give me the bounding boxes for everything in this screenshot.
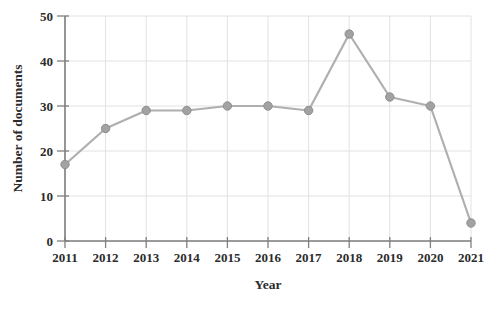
- data-point-2018: [345, 30, 353, 38]
- data-point-2020: [426, 102, 434, 110]
- x-tick-label: 2012: [93, 250, 119, 265]
- data-point-2016: [264, 102, 272, 110]
- x-tick-label: 2011: [52, 250, 77, 265]
- x-tick-label: 2016: [255, 250, 282, 265]
- data-point-2019: [386, 93, 394, 101]
- data-point-2017: [304, 106, 312, 114]
- y-axis-title: Number of documents: [10, 65, 25, 193]
- y-tick-label: 40: [40, 54, 53, 69]
- x-tick-label: 2013: [133, 250, 160, 265]
- data-point-2011: [61, 160, 69, 168]
- y-tick-label: 0: [47, 234, 54, 249]
- y-tick-label: 50: [40, 9, 53, 24]
- x-tick-label: 2014: [174, 250, 201, 265]
- axis-ticks: 0102030405020112012201320142015201620172…: [40, 9, 484, 266]
- y-tick-label: 20: [40, 144, 53, 159]
- y-tick-label: 30: [40, 99, 53, 114]
- data-point-2013: [142, 106, 150, 114]
- x-tick-label: 2018: [336, 250, 363, 265]
- chart-figure: 0102030405020112012201320142015201620172…: [0, 0, 502, 309]
- y-tick-label: 10: [40, 189, 53, 204]
- x-axis-title: Year: [255, 277, 282, 292]
- x-tick-label: 2017: [296, 250, 323, 265]
- x-tick-label: 2021: [458, 250, 484, 265]
- line-chart: 0102030405020112012201320142015201620172…: [0, 0, 502, 309]
- gridlines: [65, 16, 471, 241]
- data-point-2014: [183, 106, 191, 114]
- x-tick-label: 2015: [214, 250, 241, 265]
- data-point-2012: [101, 124, 109, 132]
- x-tick-label: 2020: [417, 250, 443, 265]
- data-point-2021: [467, 219, 475, 227]
- data-point-2015: [223, 102, 231, 110]
- x-tick-label: 2019: [377, 250, 404, 265]
